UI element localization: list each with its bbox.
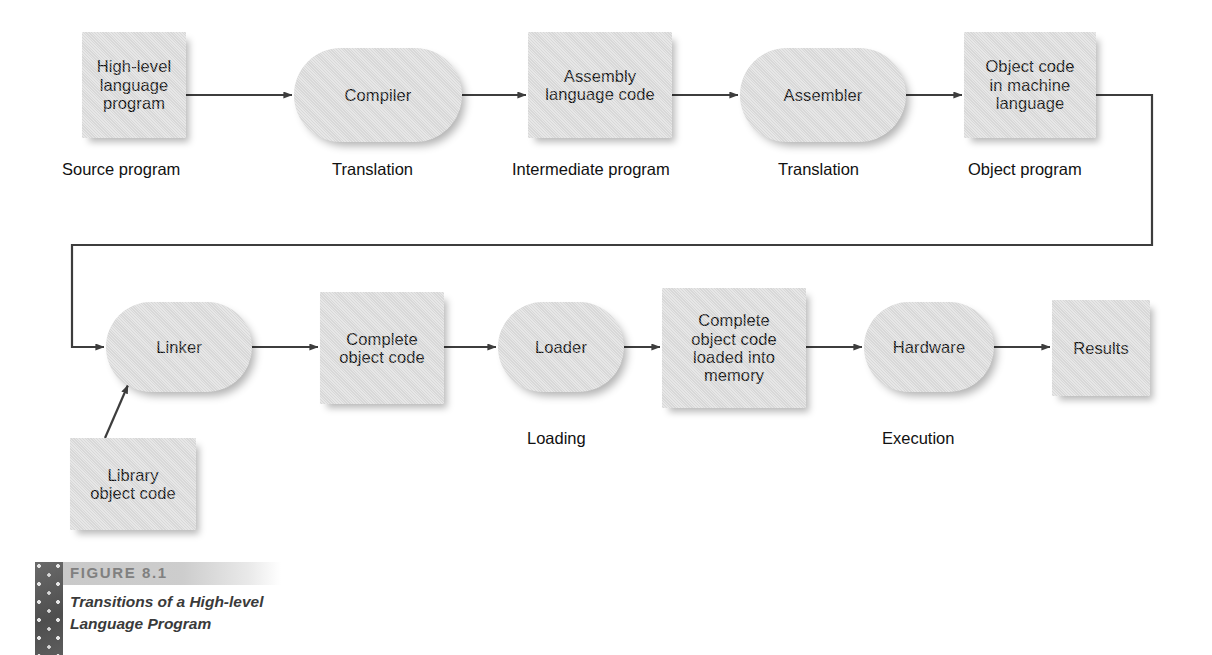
stage-label-execution: Execution bbox=[882, 429, 954, 448]
node-assembly-language-code-label: Assembly language code bbox=[541, 67, 659, 104]
stage-label-object-program: Object program bbox=[968, 160, 1082, 179]
node-complete-object-code-label: Complete object code bbox=[335, 330, 429, 367]
node-linker-label: Linker bbox=[152, 338, 206, 356]
stage-label-intermediate-program: Intermediate program bbox=[512, 160, 670, 179]
node-loader[interactable]: Loader bbox=[498, 302, 624, 392]
node-hardware-label: Hardware bbox=[889, 338, 969, 356]
stage-label-translation-2: Translation bbox=[778, 160, 859, 179]
node-results[interactable]: Results bbox=[1052, 300, 1150, 396]
stage-label-source-program: Source program bbox=[62, 160, 180, 179]
node-results-label: Results bbox=[1069, 339, 1133, 357]
node-loaded-into-memory-label: Complete object code loaded into memory bbox=[687, 311, 781, 385]
arrow-library-to-linker bbox=[105, 385, 128, 438]
node-assembler-label: Assembler bbox=[780, 86, 867, 104]
node-hardware[interactable]: Hardware bbox=[864, 302, 994, 392]
node-assembly-language-code[interactable]: Assembly language code bbox=[528, 32, 672, 138]
node-linker[interactable]: Linker bbox=[106, 302, 252, 392]
caption-texture-swatch bbox=[35, 562, 63, 655]
node-source-program-label: High-level language program bbox=[93, 57, 175, 112]
node-complete-object-code[interactable]: Complete object code bbox=[320, 292, 444, 404]
node-object-code[interactable]: Object code in machine language bbox=[964, 32, 1096, 138]
node-compiler-label: Compiler bbox=[341, 86, 416, 104]
node-loaded-into-memory[interactable]: Complete object code loaded into memory bbox=[662, 288, 806, 408]
stage-label-loading: Loading bbox=[527, 429, 586, 448]
figure-number-label: FIGURE 8.1 bbox=[70, 564, 168, 581]
figure-diagram: High-level language program Compiler Ass… bbox=[0, 0, 1212, 655]
node-source-program[interactable]: High-level language program bbox=[82, 32, 186, 138]
node-object-code-label: Object code in machine language bbox=[981, 57, 1078, 112]
node-library-object-code-label: Library object code bbox=[86, 466, 180, 503]
node-compiler[interactable]: Compiler bbox=[294, 48, 462, 142]
stage-label-translation-1: Translation bbox=[332, 160, 413, 179]
node-library-object-code[interactable]: Library object code bbox=[70, 438, 196, 530]
node-assembler[interactable]: Assembler bbox=[740, 48, 906, 142]
node-loader-label: Loader bbox=[531, 338, 591, 356]
figure-caption-text: Transitions of a High-level Language Pro… bbox=[70, 591, 310, 636]
figure-caption-block: FIGURE 8.1 Transitions of a High-level L… bbox=[0, 555, 300, 655]
